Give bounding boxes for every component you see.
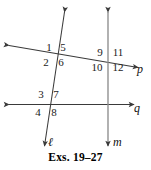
angle-label-12: 12 bbox=[111, 62, 125, 73]
line-label-m: m bbox=[113, 136, 122, 148]
angle-label-1: 1 bbox=[44, 42, 54, 53]
line-l bbox=[45, 12, 65, 146]
angle-label-8: 8 bbox=[49, 107, 59, 118]
angle-label-4: 4 bbox=[33, 107, 43, 118]
angle-label-6: 6 bbox=[56, 57, 66, 68]
line-label-l: ℓ bbox=[48, 136, 53, 148]
angle-label-10: 10 bbox=[90, 62, 104, 73]
line-label-p: p bbox=[137, 63, 143, 75]
angle-label-3: 3 bbox=[36, 89, 46, 100]
line-label-q: q bbox=[134, 102, 140, 114]
angle-label-5: 5 bbox=[58, 42, 68, 53]
lines-and-arrows-diagram bbox=[0, 0, 151, 170]
figure-caption: Exs. 19–27 bbox=[0, 151, 151, 164]
angle-label-11: 11 bbox=[111, 47, 125, 58]
angle-label-7: 7 bbox=[51, 89, 61, 100]
angle-label-2: 2 bbox=[41, 57, 51, 68]
angle-label-9: 9 bbox=[95, 47, 105, 58]
geometry-figure: 1 5 2 6 9 11 10 12 3 7 4 8 p q ℓ m Exs. … bbox=[0, 0, 151, 170]
